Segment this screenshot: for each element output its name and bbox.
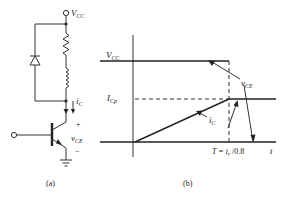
caption-b: (b) xyxy=(183,179,193,188)
vce-label: vCE xyxy=(71,133,83,144)
waveform-diagram: VCC ICp vCE iC t T xyxy=(100,35,276,188)
ic-corner-pointer-arrow-icon xyxy=(228,100,239,128)
npn-transistor-icon xyxy=(52,122,66,160)
collector-arrow-icon xyxy=(64,109,69,114)
ground-icon xyxy=(60,160,72,166)
vce-curve-label: vCE xyxy=(241,78,253,89)
circuit-diagram: VCC iC xyxy=(11,8,85,188)
base-input-terminal-icon xyxy=(11,132,16,137)
caption-a: (a) xyxy=(46,179,55,188)
diode-icon xyxy=(30,56,40,101)
vcc-terminal-icon xyxy=(63,10,68,15)
ic-curve-label: iC xyxy=(209,115,217,126)
icp-label: ICp xyxy=(106,93,117,104)
vcc-level-label: VCC xyxy=(106,50,121,61)
vce-pointer-arrow-icon xyxy=(208,60,240,79)
inductor-icon xyxy=(66,64,69,101)
plus-sign: + xyxy=(76,120,81,129)
time-axis-label: t xyxy=(270,146,273,156)
period-label: T = tr /0.8 xyxy=(212,147,244,157)
resistor-icon xyxy=(63,24,69,64)
vce-fall-curve xyxy=(244,85,253,142)
figure: VCC iC xyxy=(0,0,284,202)
minus-sign: − xyxy=(75,147,80,156)
ic-label: iC xyxy=(76,96,84,107)
ic-current-arrow-icon xyxy=(71,101,75,114)
vcc-label: VCC xyxy=(71,8,86,19)
